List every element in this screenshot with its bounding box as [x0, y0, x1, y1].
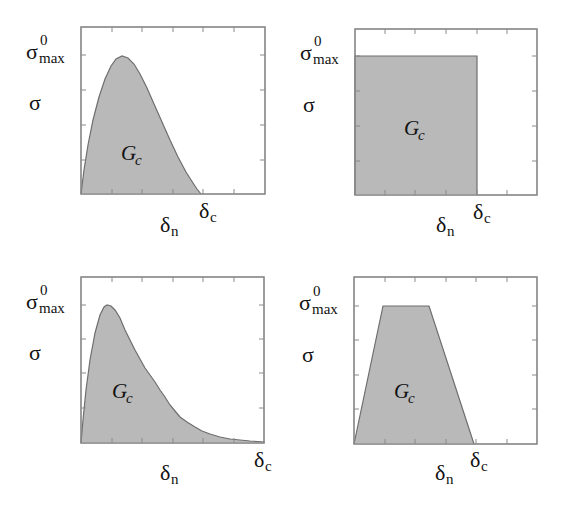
delta-n-label-subscript: n	[447, 223, 455, 239]
delta-n-label-subscript: n	[446, 471, 454, 487]
sigma-max-label: σ0max	[26, 282, 65, 316]
panel-constant-law: σ0maxσGcδnδc	[300, 29, 537, 239]
delta-c-label-base: δ	[254, 447, 264, 472]
delta-c-label-base: δ	[199, 198, 209, 223]
delta-c-label: δc	[199, 198, 217, 225]
sigma-axis-label: σ	[303, 92, 315, 117]
panel-trapezoidal-law: σ0maxσGcδnδc	[299, 277, 537, 487]
delta-c-label-subscript: c	[210, 209, 217, 225]
sigma-max-base: σ	[299, 290, 311, 315]
delta-c-label-subscript: c	[484, 210, 491, 226]
sigma-max-label: σ0max	[300, 33, 339, 67]
delta-c-label-subscript: c	[481, 458, 488, 474]
sigma-axis-label: σ	[302, 342, 314, 367]
sigma-max-subscript: max	[39, 50, 65, 66]
gc-label-base: G	[121, 141, 136, 165]
delta-n-label-base: δ	[160, 212, 170, 237]
sigma-max-base: σ	[26, 289, 38, 314]
gc-label-base: G	[112, 379, 127, 403]
delta-c-label-subscript: c	[265, 458, 272, 474]
gc-label-subscript: c	[418, 127, 425, 143]
delta-n-label: δn	[435, 460, 454, 487]
panel-skewed-exponential-law: σ0maxσGcδnδc	[26, 277, 272, 487]
delta-n-label: δn	[160, 212, 179, 239]
panel-exponential-law: σ0maxσGcδnδc	[26, 27, 265, 239]
sigma-max-subscript: max	[313, 51, 339, 67]
delta-n-label: δn	[436, 212, 455, 239]
delta-n-label: δn	[160, 460, 179, 487]
delta-n-label-base: δ	[160, 460, 170, 485]
panels: σ0maxσGcδnδcσ0maxσGcδnδcσ0maxσGcδnδcσ0ma…	[26, 27, 537, 487]
delta-c-label: δc	[470, 447, 488, 474]
sigma-max-subscript: max	[39, 300, 65, 316]
gc-label-subscript: c	[135, 152, 142, 168]
sigma-axis-label: σ	[29, 90, 41, 115]
gc-label-subscript: c	[126, 390, 133, 406]
sigma-max-superscript: 0	[40, 282, 48, 298]
delta-n-label-base: δ	[436, 212, 446, 237]
gc-label-subscript: c	[408, 390, 415, 406]
sigma-max-subscript: max	[312, 301, 338, 317]
delta-c-label-base: δ	[473, 199, 483, 224]
gc-label-base: G	[394, 379, 409, 403]
sigma-max-superscript: 0	[40, 32, 48, 48]
sigma-max-superscript: 0	[313, 283, 321, 299]
sigma-max-superscript: 0	[314, 33, 322, 49]
sigma-max-label: σ0max	[299, 283, 338, 317]
delta-c-label-base: δ	[470, 447, 480, 472]
gc-label-base: G	[404, 116, 419, 140]
sigma-max-label: σ0max	[26, 32, 65, 66]
delta-n-label-subscript: n	[171, 471, 179, 487]
delta-c-label: δc	[473, 199, 491, 226]
sigma-max-base: σ	[26, 39, 38, 64]
delta-n-label-base: δ	[435, 460, 445, 485]
sigma-axis-label: σ	[29, 340, 41, 365]
delta-c-label: δc	[254, 447, 272, 474]
cohesive-law-diagram: σ0maxσGcδnδcσ0maxσGcδnδcσ0maxσGcδnδcσ0ma…	[0, 0, 564, 510]
sigma-max-base: σ	[300, 40, 312, 65]
delta-n-label-subscript: n	[171, 223, 179, 239]
